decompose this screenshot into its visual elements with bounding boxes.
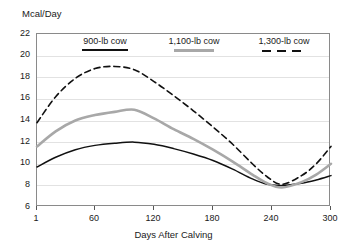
x-axis-tick-label: 1 [16, 214, 56, 223]
series-line [37, 142, 331, 185]
y-axis-title: Mcal/Day [22, 8, 62, 19]
x-axis-tick-mark [330, 206, 331, 210]
y-axis-tick-label: 22 [4, 29, 30, 38]
legend-swatch-solid-gray-icon [174, 49, 214, 52]
x-axis-tick-label: 120 [133, 214, 173, 223]
legend-swatch-dashed-black-icon [262, 50, 306, 52]
x-axis-tick-label: 60 [74, 214, 114, 223]
y-axis-tick-label: 12 [4, 137, 30, 146]
y-axis-tick-label: 10 [4, 158, 30, 167]
y-axis-tick-label: 18 [4, 72, 30, 81]
y-axis-tick-label: 16 [4, 93, 30, 102]
series-lines [37, 34, 331, 207]
x-axis-tick-label: 300 [310, 214, 347, 223]
y-axis-tick-label: 6 [4, 202, 30, 211]
legend-label: 900-lb cow [60, 36, 150, 46]
x-axis-title: Days After Calving [0, 229, 347, 240]
legend-item-1300lb: 1,300-lb cow [236, 36, 332, 52]
legend-item-900lb: 900-lb cow [60, 36, 150, 51]
x-axis-tick-mark [271, 206, 272, 210]
x-axis-tick-mark [94, 206, 95, 210]
chart-container: Mcal/Day 6810121416182022 16012018024030… [0, 0, 347, 249]
x-axis-tick-mark [153, 206, 154, 210]
x-axis-tick-mark [36, 206, 37, 210]
y-axis-tick-label: 20 [4, 50, 30, 59]
x-axis-tick-mark [212, 206, 213, 210]
legend-label: 1,100-lb cow [146, 36, 242, 46]
y-axis-tick-label: 8 [4, 180, 30, 189]
legend-swatch-solid-black-icon [82, 49, 128, 51]
legend-label: 1,300-lb cow [236, 36, 332, 46]
chart-legend: 900-lb cow 1,100-lb cow 1,300-lb cow [36, 36, 330, 58]
legend-item-1100lb: 1,100-lb cow [146, 36, 242, 52]
plot-area [36, 33, 330, 206]
y-axis-tick-label: 14 [4, 115, 30, 124]
x-axis-tick-label: 180 [192, 214, 232, 223]
x-axis-tick-label: 240 [251, 214, 291, 223]
series-line [37, 66, 331, 184]
